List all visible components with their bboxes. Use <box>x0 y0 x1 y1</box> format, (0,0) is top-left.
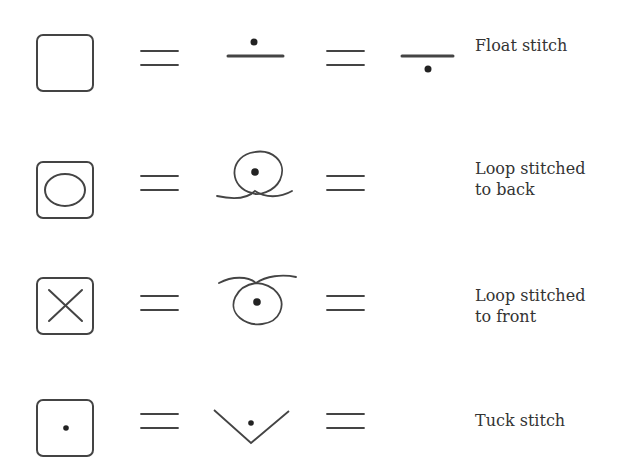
line-dot-below-icon <box>402 56 453 73</box>
empty-square-icon <box>37 35 93 91</box>
equals-icon <box>141 414 178 428</box>
equals-icon <box>141 176 178 190</box>
loop-front-row <box>37 276 364 334</box>
line-dot-above-icon <box>228 39 283 57</box>
tuck-stitch-row <box>37 400 364 456</box>
v-dot-icon <box>214 410 289 443</box>
equals-icon <box>327 176 364 190</box>
equals-icon <box>327 414 364 428</box>
loop-back-label: Loop stitched to back <box>475 158 585 200</box>
loop-front-icon <box>219 276 296 325</box>
stitch-notation-diagram: Float stitch Loop stitched to back Loop … <box>0 0 619 466</box>
equals-icon <box>141 296 178 310</box>
float-stitch-row <box>37 35 453 91</box>
loop-back-icon <box>217 152 292 198</box>
equals-icon <box>327 296 364 310</box>
equals-icon <box>327 51 364 65</box>
diagram-graphics <box>0 0 619 466</box>
loop-front-label: Loop stitched to front <box>475 285 585 327</box>
float-stitch-label: Float stitch <box>475 35 567 56</box>
tuck-stitch-label: Tuck stitch <box>475 410 565 431</box>
loop-back-row <box>37 152 364 218</box>
equals-icon <box>141 51 178 65</box>
